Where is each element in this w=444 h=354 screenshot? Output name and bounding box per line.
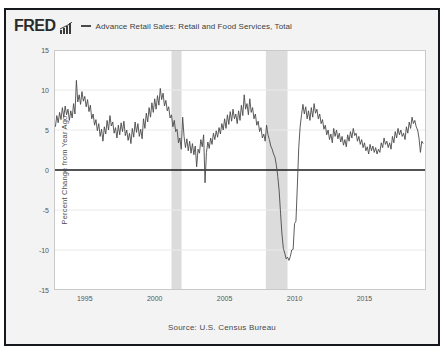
y-tick-label: -10 xyxy=(39,247,49,254)
x-tick-label: 1995 xyxy=(77,295,93,302)
y-tick-label: -15 xyxy=(39,287,49,294)
plot-area: Percent Change from Year Ago 151050-5-10… xyxy=(54,50,426,290)
x-tick-label: 2005 xyxy=(217,295,233,302)
fred-chart-screenshot: FRED Advance Retail Sales: Retail and Fo… xyxy=(0,0,444,354)
y-tick-label: 15 xyxy=(41,47,49,54)
y-axis-title: Percent Change from Year Ago xyxy=(60,115,69,224)
chart-canvas xyxy=(54,50,426,290)
y-tick-label: 5 xyxy=(45,126,49,133)
y-tick-label: 0 xyxy=(45,167,49,174)
x-tick-label: 2015 xyxy=(357,295,373,302)
y-tick-label: -5 xyxy=(43,206,49,213)
source-note: Source: U.S. Census Bureau xyxy=(6,323,438,332)
plot-wrapper: Percent Change from Year Ago 151050-5-10… xyxy=(6,10,438,344)
chart-figure-inner: FRED Advance Retail Sales: Retail and Fo… xyxy=(6,10,438,344)
y-tick-label: 10 xyxy=(41,86,49,93)
x-tick-label: 2010 xyxy=(287,295,303,302)
chart-figure-frame: FRED Advance Retail Sales: Retail and Fo… xyxy=(4,8,440,346)
x-tick-label: 2000 xyxy=(147,295,163,302)
